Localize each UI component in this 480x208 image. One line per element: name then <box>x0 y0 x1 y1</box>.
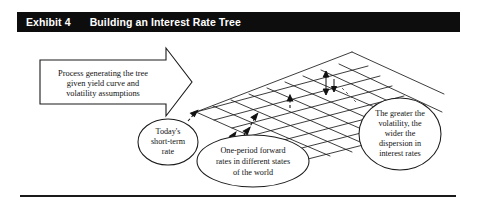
callout-3-line-2: volatility, the <box>378 119 421 128</box>
interest-rate-tree-svg: Process generating the tree given yield … <box>0 30 480 200</box>
callout-one-period-forward-rates: One-period forward rates in different st… <box>197 135 309 187</box>
callout-3-line-4: dispersion in <box>379 139 421 148</box>
callout-3-line-1: The greater the <box>375 109 425 118</box>
callout-1-line-1: Today's <box>155 127 180 136</box>
callout-3-line-3: wider the <box>385 129 416 138</box>
process-line-3: volatility assumptions <box>66 89 140 98</box>
callout-1-line-2: short-term <box>151 137 186 146</box>
process-callout-text: Process generating the tree given yield … <box>58 69 148 98</box>
diagram-canvas: Process generating the tree given yield … <box>0 30 480 200</box>
callout-2-line-1: One-period forward <box>220 146 285 155</box>
page-title: Building an Interest Rate Tree <box>90 16 241 28</box>
callout-1-line-3: rate <box>162 147 175 156</box>
callout-3-line-5: interest rates <box>379 149 421 158</box>
process-line-1: Process generating the tree <box>58 69 148 78</box>
callout-2-line-3: of the world <box>233 168 273 177</box>
exhibit-title-bar: Exhibit 4 Building an Interest Rate Tree <box>17 12 460 32</box>
callout-todays-short-term-rate: Today's short-term rate <box>138 119 198 165</box>
callout-2-line-2: rates in different states <box>216 157 290 166</box>
bottom-divider <box>20 195 456 197</box>
callout-volatility-dispersion: The greater the volatility, the wider th… <box>359 98 441 170</box>
process-line-2: given yield curve and <box>67 79 140 88</box>
exhibit-figure: Exhibit 4 Building an Interest Rate Tree <box>0 0 480 208</box>
exhibit-number-label: Exhibit 4 <box>26 16 71 28</box>
